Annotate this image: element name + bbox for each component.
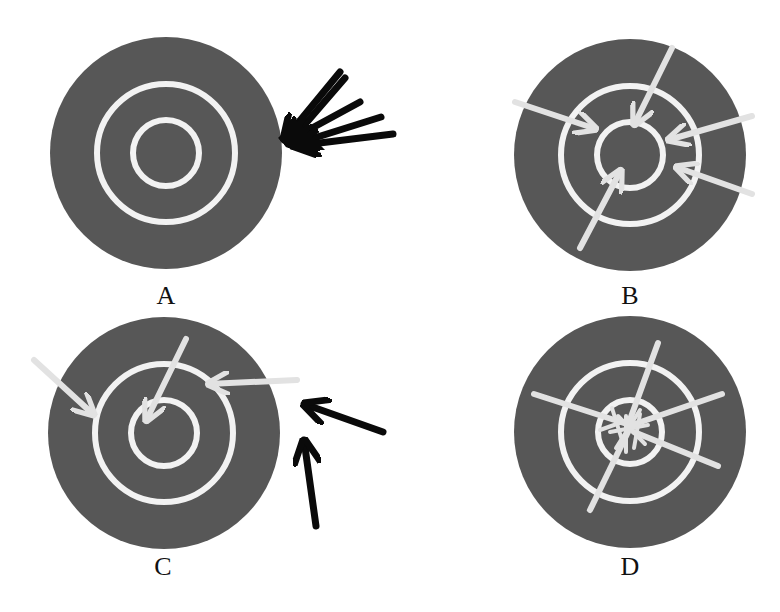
arrow-icon [304, 440, 316, 526]
arrow-icon [304, 404, 383, 432]
arrows-a [278, 72, 393, 150]
target-disk [50, 37, 282, 269]
arrows-c-outside [304, 404, 383, 526]
target-c: C [34, 317, 383, 581]
label-c: C [154, 552, 171, 581]
label-d: D [621, 552, 640, 581]
target-disk [48, 317, 280, 549]
label-b: B [621, 281, 638, 310]
target-a: A [50, 37, 393, 310]
target-disk [514, 39, 746, 271]
label-a: A [157, 281, 176, 310]
target-b: B [514, 39, 752, 310]
target-diagram: A B C [0, 0, 780, 612]
target-d: D [514, 316, 746, 581]
arrow-icon [208, 380, 297, 384]
